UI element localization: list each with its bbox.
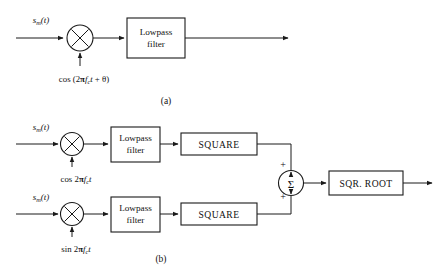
panel-b-branch1-lowpass-filter-box: Lowpass filter [111, 197, 160, 232]
panel-b-branch0-square-label: SQUARE [199, 139, 240, 150]
panel-b: sm(t) cos 2πfct Lowpass filter [16, 122, 432, 265]
panel-b-sqrt-label: SQR. ROOT [339, 178, 392, 189]
panel-b-branch0-plus-sign: + [280, 159, 286, 170]
block-diagram-svg: sm(t) cos (2πfct + θ) Lowpass filter (a) [0, 0, 444, 273]
panel-b-branch1-osc-time: t [88, 244, 91, 254]
panel-b-caption: (b) [155, 254, 166, 265]
panel-b-branch0-lowpass-filter-box: Lowpass filter [111, 127, 160, 162]
panel-b-branch0-filter-label-line1: Lowpass [119, 133, 152, 143]
panel-a-caption: (a) [161, 96, 172, 107]
panel-b-sqrt-box: SQR. ROOT [329, 171, 403, 195]
panel-b-branch1-osc-prefix: sin 2 [61, 244, 78, 254]
panel-a-filter-label-line2: filter [147, 39, 165, 49]
panel-b-branch1-to-summer-wire [257, 196, 291, 214]
panel-b-branch0-oscillator-label: cos 2πfct [61, 174, 92, 185]
panel-b-branch1-mixer [61, 203, 84, 226]
panel-a-osc-theta: + θ) [93, 74, 110, 84]
panel-b-branch-in-phase: sm(t) cos 2πfct Lowpass filter [16, 122, 291, 185]
panel-a-input-label: sm(t) [33, 15, 50, 26]
panel-b-branch1-square-label: SQUARE [199, 209, 240, 220]
panel-b-branch-quadrature: sm(t) sin 2πfct Lowpass filter [16, 190, 291, 255]
panel-b-branch0-input-label: sm(t) [33, 122, 50, 133]
panel-a-oscillator-label: cos (2πfct + θ) [59, 74, 109, 85]
panel-b-summer-glyph: Σ [288, 178, 294, 190]
panel-b-branch1-oscillator-label: sin 2πfct [61, 244, 91, 255]
panel-b-branch0-osc-time: t [89, 174, 92, 184]
panel-a-mixer [67, 25, 93, 51]
panel-b-branch0-square-box: SQUARE [181, 133, 257, 155]
panel-a: sm(t) cos (2πfct + θ) Lowpass filter (a) [16, 15, 288, 107]
panel-b-branch0-input-arg: (t) [41, 122, 50, 132]
panel-b-branch0-filter-label-line2: filter [127, 145, 145, 155]
panel-a-input-arg: (t) [41, 15, 50, 25]
figure-container: sm(t) cos (2πfct + θ) Lowpass filter (a) [0, 0, 444, 273]
panel-a-filter-label-line1: Lowpass [140, 27, 173, 37]
panel-b-branch1-filter-label-line2: filter [127, 215, 145, 225]
panel-a-filter-rect [127, 18, 185, 58]
panel-b-branch1-square-box: SQUARE [181, 203, 257, 225]
panel-a-lowpass-filter-box: Lowpass filter [127, 18, 185, 58]
panel-a-osc-prefix: cos (2 [59, 74, 80, 84]
panel-b-branch0-mixer [61, 133, 84, 156]
panel-b-branch1-input-label: sm(t) [33, 192, 50, 203]
panel-b-branch0-to-summer-wire [257, 144, 291, 170]
panel-b-branch0-osc-prefix: cos 2 [61, 174, 79, 184]
panel-b-branch1-input-arg: (t) [41, 192, 50, 202]
panel-b-branch1-filter-label-line1: Lowpass [119, 203, 152, 213]
